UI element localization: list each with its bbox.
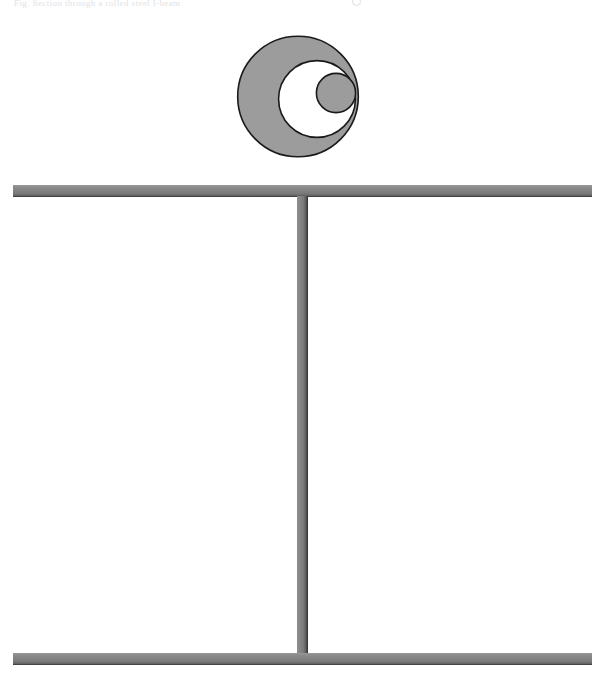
i-beam-web — [297, 196, 308, 654]
i-beam-bottom-flange — [13, 653, 592, 665]
i-beam-figure — [0, 0, 604, 686]
diagram-page: Fig. Section through a rolled steel I-be… — [0, 0, 604, 686]
